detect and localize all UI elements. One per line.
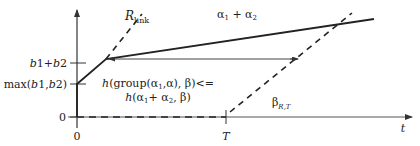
- annotation-line-1: h(group(α1,α), β)<=: [102, 77, 214, 91]
- beta-label: βR,T: [272, 96, 292, 111]
- annotation-line-2: h(α1+ α2, β): [125, 91, 191, 105]
- y-tick-label-zero: 0: [59, 111, 66, 124]
- alpha-sum-curve: [77, 19, 374, 117]
- r-link-label: Rlink: [124, 9, 149, 25]
- x-tick-label-T: T: [222, 130, 231, 143]
- y-tick-label-b1b2: b1+b2: [30, 57, 67, 70]
- beta-curve-slope: [230, 13, 352, 112]
- x-tick-label-zero: 0: [74, 130, 81, 143]
- diagram-canvas: b1+b2 max(b1,b2) 0 0 T t Rlink α1 + α2 β…: [0, 0, 420, 146]
- y-tick-label-max: max(b1,b2): [4, 78, 67, 91]
- alpha-sum-label: α1 + α2: [217, 8, 257, 22]
- network-calculus-diagram: b1+b2 max(b1,b2) 0 0 T t Rlink α1 + α2 β…: [0, 0, 420, 146]
- x-axis-label: t: [401, 122, 406, 135]
